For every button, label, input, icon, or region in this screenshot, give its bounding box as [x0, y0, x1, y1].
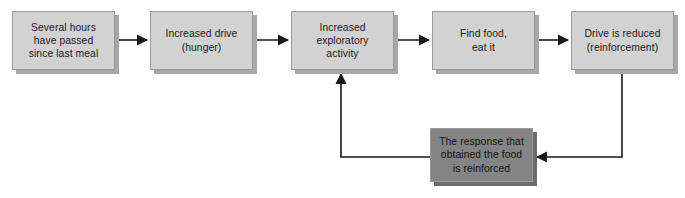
arrow-response-to-activity [341, 74, 430, 157]
arrow-reduced-to-response [537, 71, 622, 157]
flowchart-canvas: Several hours have passed since last mea… [0, 0, 685, 198]
node-drive-reduced: Drive is reduced (reinforcement) [571, 11, 674, 70]
node-exploratory-activity: Increased exploratory activity [291, 11, 394, 70]
node-response-reinforced: The response that obtained the food is r… [430, 128, 533, 182]
node-find-food-label: Find food, eat it [456, 27, 511, 53]
node-drive-reduced-label: Drive is reduced (reinforcement) [581, 27, 665, 53]
node-increased-drive-label: Increased drive (hunger) [162, 27, 242, 53]
node-find-food: Find food, eat it [432, 11, 535, 70]
node-response-reinforced-label: The response that obtained the food is r… [435, 135, 528, 174]
node-several-hours-label: Several hours have passed since last mea… [25, 21, 103, 60]
node-exploratory-activity-label: Increased exploratory activity [312, 21, 372, 60]
node-increased-drive: Increased drive (hunger) [150, 11, 253, 70]
node-several-hours: Several hours have passed since last mea… [12, 11, 115, 70]
